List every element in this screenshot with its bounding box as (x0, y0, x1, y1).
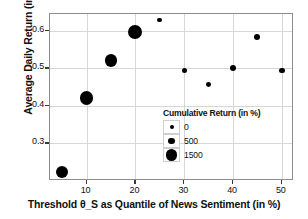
x-tick-mark (134, 180, 135, 184)
x-tick-label: 50 (266, 185, 296, 195)
legend-entries: 05001500 (163, 120, 260, 162)
legend-title: Cumulative Return (in %) (163, 108, 260, 118)
legend-entry: 500 (163, 134, 260, 148)
legend-key-swatch (163, 120, 180, 134)
data-point (182, 68, 187, 73)
y-tick-label: 0.4 (32, 99, 44, 109)
legend: Cumulative Return (in %) 05001500 (163, 108, 260, 162)
legend-key-swatch (163, 134, 180, 148)
gridline-horizontal (50, 31, 292, 32)
y-tick-label: 0.5 (32, 61, 44, 71)
gridline-horizontal (50, 68, 292, 69)
y-tick-mark (45, 105, 49, 106)
y-tick-label: 0.6 (32, 24, 44, 34)
y-tick-mark (45, 30, 49, 31)
x-tick-label: 40 (217, 185, 247, 195)
legend-entry: 0 (163, 120, 260, 134)
x-tick-mark (183, 180, 184, 184)
legend-entry-label: 0 (184, 122, 189, 132)
x-tick-label: 20 (119, 185, 149, 195)
gridline-horizontal (50, 106, 292, 107)
x-tick-mark (86, 180, 87, 184)
data-point (157, 18, 162, 23)
data-point (206, 82, 211, 87)
x-tick-mark (232, 180, 233, 184)
x-axis-label: Threshold θ_S as Quantile of News Sentim… (0, 198, 308, 210)
y-tick-mark (45, 67, 49, 68)
x-tick-mark (281, 180, 282, 184)
data-point (254, 34, 260, 40)
legend-marker-dot (166, 149, 177, 160)
legend-entry: 1500 (163, 148, 260, 162)
data-point (230, 65, 236, 71)
legend-key-swatch (163, 148, 180, 162)
y-tick-mark (45, 142, 49, 143)
x-tick-label: 10 (71, 185, 101, 195)
gridline-vertical (282, 14, 283, 179)
data-point (128, 25, 142, 39)
legend-marker-dot (170, 125, 174, 129)
data-point (56, 166, 68, 178)
legend-entry-label: 500 (184, 136, 198, 146)
data-point (105, 54, 117, 66)
x-tick-label: 30 (168, 185, 198, 195)
legend-entry-label: 1500 (184, 150, 203, 160)
legend-marker-dot (168, 138, 175, 145)
data-point (279, 68, 285, 74)
scatter-chart-figure: Average Daily Return (in %) 10203040500.… (0, 0, 308, 219)
data-point (80, 91, 94, 105)
y-tick-label: 0.3 (32, 136, 44, 146)
